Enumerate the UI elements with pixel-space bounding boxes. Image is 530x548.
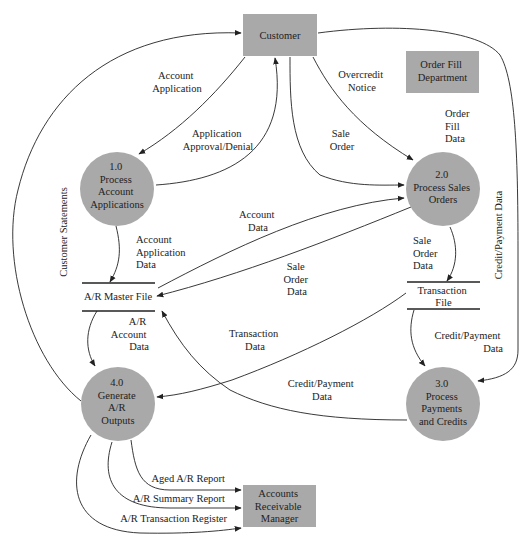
flow-label-credit-payment-customer: Credit/Payment Data — [493, 190, 504, 279]
entity-customer-label: Customer — [260, 30, 301, 41]
flow-label-ar-account-data: A/R Account Data — [111, 316, 150, 352]
flow-account-application-data-line — [110, 226, 119, 282]
process-3-0[interactable]: 3.0 Process Payments and Credits — [406, 367, 480, 441]
flow-label-account-application: Account Application — [152, 70, 202, 94]
process-2-0[interactable]: 2.0 Process Sales Orders — [406, 152, 480, 226]
flow-lines — [13, 28, 518, 533]
entity-customer[interactable]: Customer — [243, 14, 317, 56]
datastore-ar-master-file[interactable]: A/R Master File — [82, 283, 155, 311]
flow-transaction-data-line — [157, 293, 406, 397]
datastore-ar-master-label: A/R Master File — [84, 291, 153, 302]
entity-ar-manager-label: Accounts Receivable Manager — [255, 488, 304, 524]
flow-ar-account-data-line — [88, 311, 97, 366]
data-flow-diagram: Customer Order Fill Department Accounts … — [0, 0, 530, 548]
flow-label-credit-payment-tf: Credit/Payment Data — [434, 330, 503, 354]
flow-label-aged-ar-report: Aged A/R Report — [152, 473, 226, 484]
flow-label-order-fill-data: Order Fill Data — [445, 108, 472, 144]
datastore-transaction-label: Transaction File — [418, 285, 470, 308]
flow-sale-order-data-tf-line — [447, 227, 456, 281]
entity-accounts-receivable-manager[interactable]: Accounts Receivable Manager — [243, 485, 316, 527]
flow-label-application-approval: Application Approval/Denial — [183, 128, 254, 152]
flow-label-customer-statements: Customer Statements — [58, 187, 69, 277]
flow-label-sale-order-data-ar: Sale Order Data — [283, 261, 310, 297]
flow-credit-payment-tf-line — [411, 310, 425, 366]
flow-label-transaction-data: Transaction Data — [229, 328, 281, 352]
flow-label-sale-order-data-tf: Sale Order Data — [413, 235, 440, 271]
datastore-transaction-file[interactable]: Transaction File — [407, 282, 480, 309]
flow-label-account-application-data: Account Application Data — [136, 234, 188, 270]
flow-label-account-data: Account Data — [239, 209, 277, 233]
flow-label-ar-summary-report: A/R Summary Report — [133, 493, 225, 504]
flow-account-data-line — [158, 198, 404, 288]
flow-label-overcredit-notice: Overcredit Notice — [338, 69, 386, 93]
flow-label-ar-transaction-register: A/R Transaction Register — [120, 513, 227, 524]
flow-label-sale-order: Sale Order — [330, 128, 355, 152]
entity-order-fill-department[interactable]: Order Fill Department — [406, 51, 479, 93]
process-1-0[interactable]: 1.0 Process Account Applications — [80, 152, 154, 226]
process-4-0[interactable]: 4.0 Generate A/R Outputs — [81, 367, 155, 441]
flow-credit-payment-ar-line — [162, 311, 407, 420]
flow-label-credit-payment-ar: Credit/Payment Data — [288, 378, 357, 402]
entity-order-fill-label: Order Fill Department — [418, 59, 468, 83]
